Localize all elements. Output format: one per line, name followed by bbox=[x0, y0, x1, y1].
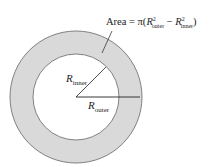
area-formula: Area = π(R2outer − R2inner) bbox=[106, 16, 197, 29]
annulus-diagram: Area = π(R2outer − R2inner) Rinner Route… bbox=[0, 0, 212, 167]
